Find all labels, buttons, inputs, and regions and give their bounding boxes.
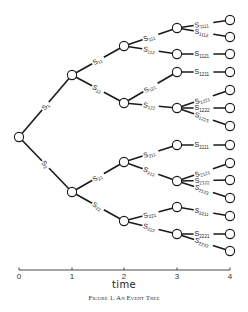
tree-node [225,15,234,24]
edge-label: S211 [141,148,159,161]
tree-node [172,140,181,149]
tree-node [225,229,234,238]
tree-node [119,216,128,225]
edge-label: S212 [141,165,159,179]
tree-node [225,67,234,76]
edge-label: S22 [90,200,106,214]
tree-node [172,103,181,112]
tree-node [172,202,181,211]
edge-label: S2111 [194,141,214,149]
tree-node [225,211,234,220]
tree-node [172,49,181,58]
tree-node [225,193,234,202]
tree-node [225,140,234,149]
edge-label: S12 [90,83,106,97]
tree-node [225,103,234,112]
event-tree-diagram: S1S2S11S12S21S22S111S112S121S122S211S212… [0,0,248,312]
tree-node [172,229,181,238]
tree-node [225,49,234,58]
axis-title-time: time [112,279,136,290]
edge-label: S221 [142,208,160,220]
tree-node [225,158,234,167]
edge-label: S111 [141,31,159,44]
tree-node [172,23,181,32]
edge-label: S121 [142,80,161,96]
axis-tick-label: 0 [17,272,22,281]
tree-node [225,85,234,94]
edge-label: S1112 [193,27,214,39]
tree-node [119,98,128,107]
edge-label: S11 [90,54,106,68]
axis-tick-label: 1 [70,272,75,281]
edge-label: S1211 [194,68,214,76]
tree-node [172,176,181,185]
edge-label: S2211 [193,206,214,218]
edge-label: S122 [142,101,159,111]
tree-node [225,121,234,130]
axis-tick-label: 3 [175,272,180,281]
tree-node [225,175,234,184]
tree-node [67,187,76,196]
axis-tick-label: 4 [228,272,233,281]
tree-node [172,67,181,76]
edge-label: S222 [141,222,159,234]
tree-node [225,32,234,41]
edge-label: S21 [90,171,106,185]
tree-node [119,157,128,166]
edge-label: S1121 [194,50,214,58]
root-node [14,132,23,141]
edge-label: S112 [142,45,160,56]
tree-node [225,246,234,255]
tree-node [67,70,76,79]
figure-caption: Figure 1. An Event Tree [89,294,160,302]
tree-node [119,41,128,50]
